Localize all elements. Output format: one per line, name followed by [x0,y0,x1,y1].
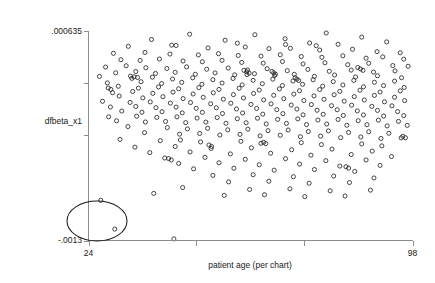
data-point [264,122,268,126]
data-point [143,120,147,124]
data-point [188,101,192,105]
data-point [400,76,404,80]
data-point [309,102,313,106]
data-point [361,113,365,117]
data-point [350,103,354,107]
data-point [283,37,287,41]
data-point [319,143,323,147]
data-point [200,110,204,114]
data-point [339,136,343,140]
plot-markers-group [97,31,410,241]
data-point [199,140,203,144]
x-axis-group [89,241,414,246]
data-point [301,62,305,66]
x-axis-right-tick-label: 98 [408,248,418,258]
data-point [188,150,192,154]
data-point [349,68,353,72]
data-point [131,89,135,93]
data-point [260,82,264,86]
data-point [213,71,217,75]
data-point [402,85,406,89]
data-point [157,85,161,89]
data-point [405,123,409,127]
data-point [291,175,295,179]
data-point [267,179,271,183]
data-point [197,86,201,90]
data-point [329,104,333,108]
data-point [265,67,269,71]
x-axis-left-tick-label: 24 [84,248,94,258]
data-point [108,105,112,109]
data-point [304,123,308,127]
data-point [191,92,195,96]
data-point [133,145,137,149]
data-point [220,81,224,85]
data-point [113,227,117,231]
data-point [352,78,356,82]
data-point [276,117,280,121]
data-point [326,129,330,133]
data-point [235,41,239,45]
data-point [150,75,154,79]
data-point [324,159,328,163]
data-point [312,167,316,171]
data-point [376,118,380,122]
data-point [228,152,232,156]
data-point [117,94,121,98]
data-point [231,93,235,97]
data-point [181,97,185,101]
data-point [227,180,231,184]
data-point [155,115,159,119]
data-point [118,137,122,141]
data-point [385,124,389,128]
data-point [249,146,253,150]
data-point [387,131,391,135]
data-point [116,84,120,88]
data-point [364,158,368,162]
data-point [215,115,219,119]
data-point [358,88,362,92]
data-point [318,48,322,52]
data-point [367,61,371,65]
data-point [251,78,255,82]
data-point [165,126,169,130]
data-point [382,100,386,104]
data-point [238,132,242,136]
data-point [151,91,155,95]
data-point [328,189,332,193]
data-point [128,100,132,104]
data-point [285,69,289,73]
data-point [372,176,376,180]
data-point [375,108,379,112]
data-point [284,121,288,125]
data-point [266,129,270,133]
data-point [322,97,326,101]
data-point [114,71,118,75]
data-point [246,127,250,131]
data-point [360,142,364,146]
data-point [206,126,210,130]
data-point [168,52,172,56]
data-point [220,58,224,62]
data-point [203,155,207,159]
chart-canvas: .000635 -.0013 dfbeta_x1 24 98 patient a… [0,0,435,283]
data-point [239,139,243,143]
data-point [107,115,111,119]
data-point [165,66,169,70]
data-point [262,193,266,197]
data-point [269,102,273,106]
data-point [252,72,256,76]
data-point [231,76,235,80]
data-point [308,41,312,45]
data-point [177,161,181,165]
data-point [198,131,202,135]
data-point [289,103,293,107]
data-point [173,70,177,74]
data-point [241,111,245,115]
data-point [281,112,285,116]
data-point [243,157,247,161]
data-point [153,71,157,75]
data-point [335,108,339,112]
data-point [312,94,316,98]
data-point [174,105,178,109]
